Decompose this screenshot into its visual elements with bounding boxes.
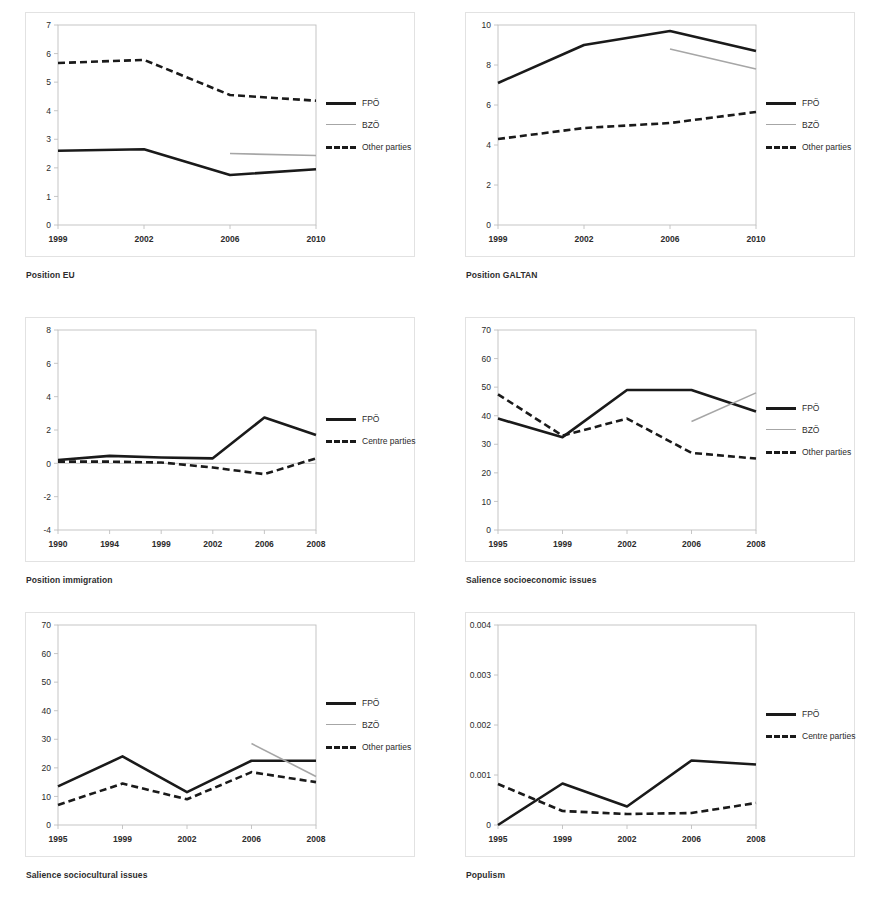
- y-tick-label: 0: [486, 220, 491, 230]
- y-tick-label: 1: [46, 192, 51, 202]
- series-line: [498, 394, 756, 458]
- legend-label: BZÖ: [362, 121, 379, 130]
- x-tick-label: 1999: [49, 234, 68, 244]
- y-tick-label: 0.004: [470, 620, 492, 630]
- x-tick-label: 2008: [307, 834, 326, 844]
- y-tick-label: 6: [486, 100, 491, 110]
- x-tick-label: 2006: [661, 234, 680, 244]
- series-line: [58, 418, 316, 461]
- legend-label: FPÖ: [362, 699, 379, 708]
- y-tick-label: 0: [486, 525, 491, 535]
- legend-label: BZÖ: [362, 721, 379, 730]
- y-tick-label: 70: [482, 325, 492, 335]
- series-line: [58, 756, 316, 792]
- legend-item[interactable]: BZÖ: [326, 714, 411, 736]
- y-tick-label: 10: [482, 497, 492, 507]
- y-tick-label: 4: [46, 392, 51, 402]
- plot-frame: [58, 25, 316, 225]
- y-tick-label: 10: [42, 792, 52, 802]
- x-tick-label: 1995: [49, 834, 68, 844]
- legend-label: BZÖ: [802, 426, 819, 435]
- y-tick-label: -4: [43, 525, 51, 535]
- legend-swatch-dashed-icon: [326, 742, 356, 752]
- x-tick-label: 2010: [747, 234, 766, 244]
- series-line: [230, 154, 316, 156]
- chart-panel-salience-sociocultural: 01020304050607019951999200220062008FPÖBZ…: [0, 606, 440, 911]
- legend-item[interactable]: FPÖ: [766, 397, 851, 419]
- chart-legend: FPÖCentre parties: [326, 408, 415, 452]
- x-tick-label: 1990: [49, 539, 68, 549]
- y-tick-label: 0: [46, 220, 51, 230]
- plot-frame: [58, 330, 316, 530]
- legend-item[interactable]: BZÖ: [766, 419, 851, 441]
- legend-item[interactable]: Other parties: [766, 136, 851, 158]
- x-tick-label: 2008: [747, 539, 766, 549]
- x-tick-label: 1995: [489, 834, 508, 844]
- legend-swatch-dashed-icon: [766, 731, 796, 741]
- x-tick-label: 2006: [682, 834, 701, 844]
- series-line: [670, 49, 756, 69]
- legend-label: Other parties: [362, 743, 411, 752]
- chart-box: 01020304050607019951999200220062008FPÖBZ…: [25, 612, 415, 857]
- x-tick-label: 1994: [100, 539, 119, 549]
- x-tick-label: 1999: [553, 834, 572, 844]
- y-tick-label: 2: [46, 425, 51, 435]
- series-line: [498, 112, 756, 139]
- y-tick-label: 30: [42, 734, 52, 744]
- chart-legend: FPÖCentre parties: [766, 703, 855, 747]
- x-tick-label: 2002: [135, 234, 154, 244]
- chart-title: Salience socioeconomic issues: [466, 575, 596, 585]
- chart-panel-salience-socioeconomic: 01020304050607019951999200220062008FPÖBZ…: [440, 311, 880, 616]
- x-tick-label: 2006: [242, 834, 261, 844]
- legend-swatch-solid-thick-icon: [766, 403, 796, 413]
- chart-title: Populism: [466, 870, 505, 880]
- y-tick-label: 2: [46, 163, 51, 173]
- legend-item[interactable]: FPÖ: [326, 692, 411, 714]
- legend-item[interactable]: Centre parties: [326, 430, 415, 452]
- y-tick-label: 0.003: [470, 670, 492, 680]
- y-tick-label: 20: [482, 468, 492, 478]
- x-tick-label: 2002: [618, 834, 637, 844]
- legend-item[interactable]: FPÖ: [766, 92, 851, 114]
- x-tick-label: 1999: [553, 539, 572, 549]
- legend-swatch-solid-thick-icon: [326, 98, 356, 108]
- legend-label: Other parties: [802, 143, 851, 152]
- x-tick-label: 2008: [307, 539, 326, 549]
- x-tick-label: 2006: [682, 539, 701, 549]
- y-tick-label: 0: [486, 820, 491, 830]
- chart-legend: FPÖBZÖOther parties: [326, 92, 411, 158]
- chart-panel-position-galtan: 02468101999200220062010FPÖBZÖOther parti…: [440, 6, 880, 311]
- legend-item[interactable]: Centre parties: [766, 725, 855, 747]
- y-tick-label: 40: [42, 706, 52, 716]
- y-tick-label: 0: [46, 820, 51, 830]
- y-tick-label: 40: [482, 411, 492, 421]
- x-tick-label: 2002: [575, 234, 594, 244]
- legend-item[interactable]: Other parties: [766, 441, 851, 463]
- x-tick-label: 1999: [489, 234, 508, 244]
- x-tick-label: 2002: [618, 539, 637, 549]
- legend-item[interactable]: BZÖ: [326, 114, 411, 136]
- legend-item[interactable]: FPÖ: [326, 92, 411, 114]
- legend-swatch-solid-thin-icon: [766, 120, 796, 130]
- y-tick-label: 3: [46, 134, 51, 144]
- legend-item[interactable]: FPÖ: [326, 408, 415, 430]
- y-tick-label: 2: [486, 180, 491, 190]
- legend-item[interactable]: FPÖ: [766, 703, 855, 725]
- legend-item[interactable]: BZÖ: [766, 114, 851, 136]
- y-tick-label: 6: [46, 49, 51, 59]
- y-tick-label: 0: [46, 459, 51, 469]
- figure-sheet: 012345671999200220062010FPÖBZÖOther part…: [0, 0, 880, 916]
- x-tick-label: 1999: [152, 539, 171, 549]
- chart-title: Salience sociocultural issues: [26, 870, 147, 880]
- x-tick-label: 2006: [255, 539, 274, 549]
- legend-item[interactable]: Other parties: [326, 136, 411, 158]
- plot-frame: [58, 625, 316, 825]
- plot-frame: [498, 625, 756, 825]
- y-tick-label: 20: [42, 763, 52, 773]
- legend-item[interactable]: Other parties: [326, 736, 411, 758]
- y-tick-label: 4: [46, 106, 51, 116]
- y-tick-label: 7: [46, 20, 51, 30]
- legend-label: FPÖ: [362, 415, 379, 424]
- y-tick-label: 5: [46, 77, 51, 87]
- chart-box: -4-202468199019941999200220062008FPÖCent…: [25, 317, 415, 562]
